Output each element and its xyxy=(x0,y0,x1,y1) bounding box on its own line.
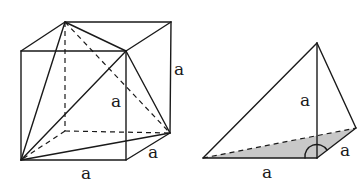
tetra-edge-1 xyxy=(21,22,65,160)
label-inner-edge: a xyxy=(111,91,121,111)
shaded-base xyxy=(203,128,356,158)
label-depth-edge: a xyxy=(340,140,350,160)
label-depth-edge: a xyxy=(148,142,158,162)
cube-right-back-edge xyxy=(170,22,171,133)
label-bottom-edge: a xyxy=(262,162,272,182)
tetra-hidden-diagonal xyxy=(65,22,170,133)
label-bottom-edge: a xyxy=(81,163,91,183)
label-height: a xyxy=(300,90,310,110)
cube-figure: a a a a xyxy=(21,22,184,183)
diagram-canvas: a a a a a a a xyxy=(0,0,364,183)
cube-top-left-edge xyxy=(21,22,65,51)
label-right-edge: a xyxy=(174,59,184,79)
tetra-edge-4 xyxy=(65,22,126,51)
slant-edge-right xyxy=(317,43,356,128)
cube-hidden-back-bottom-edge xyxy=(65,131,170,133)
cube-top-right-edge xyxy=(126,22,171,51)
tetrahedron-figure: a a a xyxy=(203,43,356,182)
tetra-edge-5 xyxy=(126,51,170,133)
